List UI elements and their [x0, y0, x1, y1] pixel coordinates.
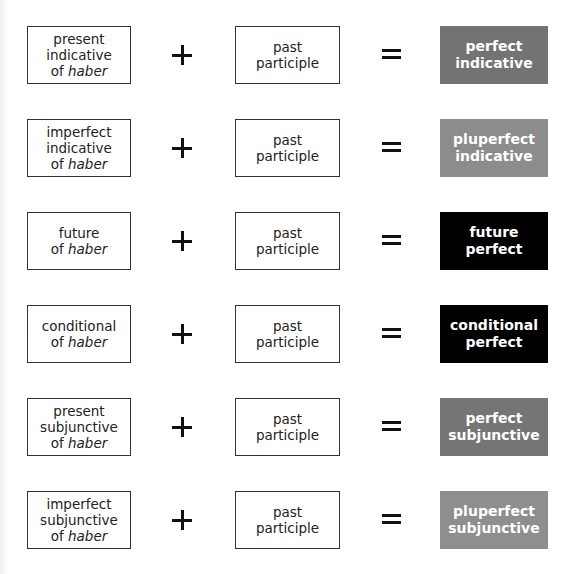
result-box: conditional perfect [440, 305, 548, 363]
haber-label: haber [68, 435, 107, 451]
participle-line: participle [256, 148, 319, 164]
result-box: pluperfect subjunctive [440, 491, 548, 549]
participle-box: past participle [235, 119, 340, 177]
result-line: future [469, 224, 518, 241]
auxiliary-box: present indicative of haber [27, 26, 131, 84]
participle-line: past [273, 318, 302, 334]
aux-line: future [59, 225, 100, 241]
result-line: pluperfect [453, 503, 535, 520]
participle-box: past participle [235, 212, 340, 270]
result-line: perfect [466, 410, 523, 427]
plus-icon [172, 138, 192, 158]
participle-line: past [273, 504, 302, 520]
haber-label: haber [68, 334, 107, 350]
haber-label: haber [68, 63, 107, 79]
haber-label: haber [68, 528, 107, 544]
aux-of-haber: of haber [51, 334, 108, 350]
auxiliary-box: present subjunctive of haber [27, 398, 131, 456]
result-box: pluperfect indicative [440, 119, 548, 177]
equals-icon [382, 421, 401, 431]
result-line: indicative [455, 55, 532, 72]
participle-box: past participle [235, 305, 340, 363]
page-edge-shadow [0, 0, 6, 574]
of-label: of [51, 435, 68, 451]
of-label: of [51, 528, 68, 544]
plus-icon [172, 231, 192, 251]
result-line: perfect [466, 241, 523, 258]
result-line: perfect [466, 38, 523, 55]
of-label: of [51, 63, 68, 79]
haber-label: haber [68, 156, 107, 172]
participle-line: participle [256, 55, 319, 71]
formula-row-perfect-indicative: present indicative of haber past partici… [0, 26, 572, 84]
haber-label: haber [68, 241, 107, 257]
aux-of-haber: of haber [51, 156, 108, 172]
participle-box: past participle [235, 491, 340, 549]
plus-icon [172, 45, 192, 65]
participle-line: participle [256, 427, 319, 443]
aux-of-haber: of haber [51, 63, 108, 79]
participle-box: past participle [235, 398, 340, 456]
result-line: subjunctive [448, 427, 539, 444]
aux-of-haber: of haber [51, 435, 108, 451]
formula-row-perfect-subjunctive: present subjunctive of haber past partic… [0, 398, 572, 456]
formula-row-future-perfect: future of haber past participle future p… [0, 212, 572, 270]
aux-of-haber: of haber [51, 528, 108, 544]
formula-row-conditional-perfect: conditional of haber past participle con… [0, 305, 572, 363]
aux-line: indicative [46, 140, 112, 156]
equals-icon [382, 514, 401, 524]
result-box: perfect indicative [440, 26, 548, 84]
participle-line: participle [256, 334, 319, 350]
equals-icon [382, 49, 401, 59]
participle-line: participle [256, 241, 319, 257]
result-line: subjunctive [448, 520, 539, 537]
participle-line: past [273, 39, 302, 55]
participle-box: past participle [235, 26, 340, 84]
auxiliary-box: conditional of haber [27, 305, 131, 363]
participle-line: past [273, 225, 302, 241]
equals-icon [382, 142, 401, 152]
of-label: of [51, 241, 68, 257]
of-label: of [51, 334, 68, 350]
aux-of-haber: of haber [51, 241, 108, 257]
aux-line: imperfect [46, 124, 111, 140]
auxiliary-box: future of haber [27, 212, 131, 270]
equals-icon [382, 235, 401, 245]
aux-line: subjunctive [40, 419, 118, 435]
aux-line: subjunctive [40, 512, 118, 528]
result-line: perfect [466, 334, 523, 351]
aux-line: present [53, 31, 104, 47]
participle-line: past [273, 132, 302, 148]
aux-line: indicative [46, 47, 112, 63]
result-box: future perfect [440, 212, 548, 270]
aux-line: conditional [42, 318, 116, 334]
formula-row-pluperfect-indicative: imperfect indicative of haber past parti… [0, 119, 572, 177]
auxiliary-box: imperfect subjunctive of haber [27, 491, 131, 549]
aux-line: present [53, 403, 104, 419]
equals-icon [382, 328, 401, 338]
formula-row-pluperfect-subjunctive: imperfect subjunctive of haber past part… [0, 491, 572, 549]
result-line: pluperfect [453, 131, 535, 148]
participle-line: past [273, 411, 302, 427]
aux-line: imperfect [46, 496, 111, 512]
result-line: indicative [455, 148, 532, 165]
participle-line: participle [256, 520, 319, 536]
plus-icon [172, 510, 192, 530]
plus-icon [172, 324, 192, 344]
auxiliary-box: imperfect indicative of haber [27, 119, 131, 177]
plus-icon [172, 417, 192, 437]
result-box: perfect subjunctive [440, 398, 548, 456]
of-label: of [51, 156, 68, 172]
result-line: conditional [450, 317, 538, 334]
